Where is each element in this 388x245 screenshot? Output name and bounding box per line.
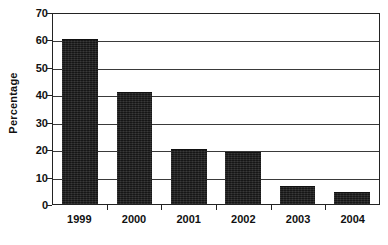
plot-area [52,13,380,205]
x-tick-mark-2 [161,205,162,210]
bar-2004 [334,192,370,204]
x-tick-mark-4 [271,205,272,210]
x-tick-mark-5 [325,205,326,210]
y-tick-mark-20 [47,150,52,151]
y-tick-mark-50 [47,68,52,69]
bar-2002 [225,152,261,204]
x-tick-label-2000: 2000 [107,213,162,237]
y-tick-mark-40 [47,95,52,96]
y-tick-mark-60 [47,40,52,41]
x-tick-label-2004: 2004 [325,213,380,237]
bar-2001 [171,149,207,204]
y-axis-title-text: Percentage [7,72,19,133]
x-tick-label-2001: 2001 [161,213,216,237]
x-tick-mark-3 [216,205,217,210]
bar-slot-2001 [162,14,216,204]
bar-slot-2003 [270,14,324,204]
x-tick-label-1999: 1999 [52,213,107,237]
bar-slot-1999 [53,14,107,204]
y-tick-mark-10 [47,178,52,179]
y-tick-mark-0 [47,205,52,206]
bar-slot-2000 [107,14,161,204]
bar-2000 [117,92,153,204]
bar-1999 [62,39,98,204]
bar-2003 [280,186,316,204]
y-tick-mark-70 [47,13,52,14]
bar-chart: Percentage 706050403020100 1999200020012… [0,0,388,245]
x-tick-label-2003: 2003 [271,213,326,237]
x-tick-mark-1 [107,205,108,210]
y-tick-mark-30 [47,123,52,124]
y-axis-tick-labels: 706050403020100 [22,13,48,205]
y-axis-title: Percentage [2,0,24,205]
bar-slot-2002 [216,14,270,204]
bars-group [53,14,379,204]
x-axis-tick-labels: 199920002001200220032004 [52,213,380,237]
bar-slot-2004 [325,14,379,204]
x-tick-label-2002: 2002 [216,213,271,237]
